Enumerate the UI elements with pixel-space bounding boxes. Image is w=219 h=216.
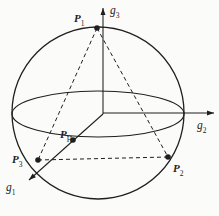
point-label-p3-sub: 3 <box>19 160 23 169</box>
point-dot-P1 <box>94 25 100 31</box>
axis-g2-arrowhead-icon <box>207 111 214 116</box>
point-label-p3-main: P <box>12 153 19 165</box>
point-dot-P3 <box>35 157 41 163</box>
point-label-p1-sub: 1 <box>81 19 85 28</box>
diagram-canvas <box>0 0 219 216</box>
sphere-axes-diagram: P1 P2 P3 PH g3 g2 g1 <box>0 0 219 216</box>
point-label-p2-main: P <box>173 162 180 174</box>
axis-label-g3: g3 <box>110 1 120 17</box>
point-label-p1: P1 <box>74 9 84 25</box>
point-label-ph: PH <box>60 125 72 141</box>
equator-ellipse <box>12 91 184 137</box>
point-dot-P2 <box>165 154 171 160</box>
axis-g3-arrowhead-icon <box>101 8 106 15</box>
point-label-ph-sub: H <box>67 135 72 144</box>
dashed-edge-P3-P2 <box>38 157 168 160</box>
point-label-p2: P2 <box>173 159 183 175</box>
dashed-edge-P1-P2 <box>97 28 168 157</box>
axis-label-g3-sub: 3 <box>116 11 120 20</box>
axis-label-g2: g2 <box>197 116 207 132</box>
point-label-ph-main: P <box>60 128 67 140</box>
point-label-p2-sub: 2 <box>180 169 184 178</box>
point-label-p1-main: P <box>74 12 81 24</box>
axis-label-g1-sub: 1 <box>12 188 16 197</box>
point-label-p3: P3 <box>12 150 22 166</box>
axis-label-g2-sub: 2 <box>203 126 207 135</box>
axis-label-g1: g1 <box>6 178 16 194</box>
axis-g1-line <box>29 114 103 180</box>
